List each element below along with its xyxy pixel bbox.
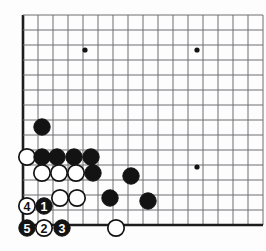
stone-move-number: 2 <box>41 222 48 236</box>
black-stone <box>34 149 50 165</box>
white-stone <box>34 165 50 181</box>
stone-white-b6[interactable] <box>34 165 50 181</box>
white-stone <box>51 165 67 181</box>
stone-black-e6[interactable] <box>85 165 101 181</box>
stone-black-move-3[interactable]: 3 <box>54 220 70 236</box>
black-stone <box>83 149 99 165</box>
white-stone <box>108 220 124 236</box>
stone-black-d10[interactable] <box>34 119 50 135</box>
stone-black-b7[interactable] <box>34 149 50 165</box>
black-stone <box>34 119 50 135</box>
stone-white-a7[interactable] <box>19 149 35 165</box>
stone-black-e5[interactable] <box>102 190 118 206</box>
stone-move-number: 4 <box>24 200 31 214</box>
star-point-upper-left <box>82 47 87 52</box>
stone-move-number: 1 <box>41 200 48 214</box>
white-stone <box>52 190 68 206</box>
stone-black-move-1[interactable]: 1 <box>36 198 52 214</box>
white-stone <box>19 149 35 165</box>
stone-white-c6[interactable] <box>51 165 67 181</box>
stone-black-e7[interactable] <box>83 149 99 165</box>
white-stone <box>69 190 85 206</box>
stone-white-move-2[interactable]: 2 <box>36 220 52 236</box>
stone-move-number: 3 <box>59 222 66 236</box>
stone-white-c5[interactable] <box>69 190 85 206</box>
stone-move-number: 5 <box>24 222 31 236</box>
black-stone <box>66 149 82 165</box>
black-stone <box>123 168 139 184</box>
white-stone <box>68 165 84 181</box>
stone-black-h5[interactable] <box>140 193 156 209</box>
stone-black-d7[interactable] <box>66 149 82 165</box>
black-stone <box>49 149 65 165</box>
black-stone <box>85 165 101 181</box>
star-point-upper-right <box>194 47 199 52</box>
stone-black-move-5[interactable]: 5 <box>19 220 35 236</box>
stone-white-move-4[interactable]: 4 <box>19 198 35 214</box>
go-board-diagram: 41523 <box>0 0 266 251</box>
star-point-lower-right <box>194 164 199 169</box>
stone-white-f1[interactable] <box>108 220 124 236</box>
stone-black-g6[interactable] <box>123 168 139 184</box>
goban-svg[interactable]: 41523 <box>0 0 266 251</box>
black-stone <box>140 193 156 209</box>
stone-white-b5[interactable] <box>52 190 68 206</box>
stone-white-d6[interactable] <box>68 165 84 181</box>
stone-black-c7[interactable] <box>49 149 65 165</box>
black-stone <box>102 190 118 206</box>
